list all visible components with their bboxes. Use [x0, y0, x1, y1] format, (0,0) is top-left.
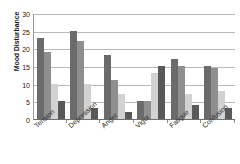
bar [118, 94, 125, 119]
y-tick-label: 0 [10, 117, 30, 124]
bar [77, 41, 84, 119]
y-axis-tick-labels: 051015202530 [10, 14, 30, 120]
y-tick-label: 5 [10, 99, 30, 106]
bar [37, 38, 44, 119]
bar [70, 31, 77, 119]
x-label-slot: Confusion [201, 120, 240, 160]
y-tick-label: 25 [10, 28, 30, 35]
bar [158, 66, 165, 119]
bar [151, 73, 158, 119]
y-tick-label: 20 [10, 46, 30, 53]
y-tick-label: 15 [10, 64, 30, 71]
bar-group [34, 14, 68, 119]
plot-area [33, 14, 235, 120]
bar-group [168, 14, 202, 119]
bar [104, 55, 111, 119]
bar [192, 105, 199, 119]
bar-group [202, 14, 236, 119]
bar-group [135, 14, 169, 119]
y-tick-label: 30 [10, 11, 30, 18]
x-axis-category-labels: TensionDepressionAngerVigorFatigueConfus… [33, 120, 235, 164]
y-tick-label: 10 [10, 81, 30, 88]
bar [125, 112, 132, 119]
mood-disturbance-bar-chart: Mood Disturbance 051015202530 TensionDep… [0, 0, 240, 164]
bar [171, 59, 178, 119]
bar [204, 66, 211, 119]
bar-group [101, 14, 135, 119]
bar-groups [34, 14, 235, 119]
bar [58, 101, 65, 119]
